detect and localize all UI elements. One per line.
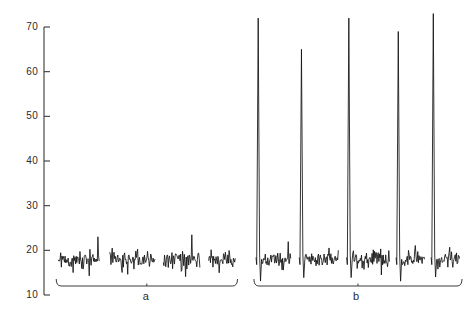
bracket-a-label: a xyxy=(143,291,149,302)
y-tick-label: 60 xyxy=(12,67,38,77)
chart-canvas xyxy=(0,0,473,316)
chart-figure: 10203040506070ab xyxy=(0,0,473,316)
trace-segment xyxy=(256,18,291,281)
trace-segment xyxy=(299,49,338,277)
trace-segment xyxy=(110,248,155,274)
trace-group-a xyxy=(58,235,235,277)
y-tick-label: 50 xyxy=(12,111,38,121)
trace-segment xyxy=(431,14,460,277)
y-tick-label: 70 xyxy=(12,22,38,32)
y-tick-label: 40 xyxy=(12,156,38,166)
trace-group xyxy=(58,14,459,282)
y-tick-label: 20 xyxy=(12,245,38,255)
y-tick-label: 30 xyxy=(12,201,38,211)
trace-group-b xyxy=(256,14,460,282)
bracket-b-label: b xyxy=(353,291,359,302)
trace-segment xyxy=(396,31,425,281)
y-axis xyxy=(44,27,50,295)
trace-segment xyxy=(163,235,200,277)
trace-segment xyxy=(58,237,99,276)
trace-segment xyxy=(347,18,390,277)
y-tick-label: 10 xyxy=(12,290,38,300)
trace-segment xyxy=(209,250,236,273)
